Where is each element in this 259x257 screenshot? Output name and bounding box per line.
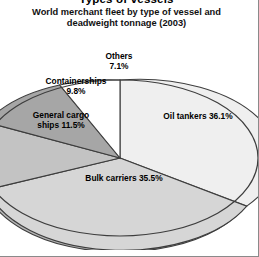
pie-label-oil-tankers-text: Oil tankers 36.1% [163, 111, 232, 121]
pie-label-general-cargo-line1: General cargo [33, 110, 89, 120]
pie-label-containerships-name: Containerships [46, 76, 107, 86]
pie-label-bulk-carriers-text: Bulk carriers 35.5% [85, 173, 162, 183]
pie-label-others: Others 7.1% [96, 51, 142, 71]
pie-label-containerships-percent: 9.8% [33, 86, 119, 96]
chart-figure: Types of vessels World merchant fleet by… [0, 0, 259, 257]
pie-label-bulk-carriers: Bulk carriers 35.5% [70, 173, 178, 183]
page-title: Types of vessels [4, 0, 249, 5]
chart-subtitle: World merchant fleet by type of vessel a… [4, 7, 249, 30]
pie-label-general-cargo-line2: ships 11.5% [19, 120, 103, 130]
pie-label-general-cargo-ships: General cargo ships 11.5% [19, 110, 103, 130]
pie-label-oil-tankers: Oil tankers 36.1% [150, 111, 246, 121]
pie-label-containerships: Containerships 9.8% [33, 76, 119, 96]
pie-label-others-percent: 7.1% [96, 61, 142, 71]
chart-title-block: Types of vessels World merchant fleet by… [0, 0, 253, 30]
pie-label-others-name: Others [106, 51, 133, 61]
